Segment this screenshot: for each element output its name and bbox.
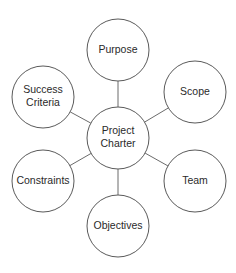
connector-success-criteria [70, 112, 91, 123]
node-success-criteria: SuccessCriteria [12, 66, 74, 128]
node-label: Success [23, 83, 63, 95]
node-constraints: Constraints [12, 150, 74, 212]
node-label: Criteria [26, 96, 60, 108]
connector-constraints [70, 153, 91, 165]
node-label: Team [182, 174, 208, 186]
connector-team [145, 153, 168, 166]
node-label: Charter [100, 137, 136, 149]
nodes: PurposeScopeTeamObjectivesConstraintsSuc… [12, 19, 226, 257]
node-objectives: Objectives [87, 195, 149, 257]
node-scope: Scope [164, 61, 226, 123]
node-label: Project [102, 124, 135, 136]
node-label: Constraints [16, 174, 69, 186]
node-team: Team [164, 150, 226, 212]
node-label: Objectives [93, 219, 142, 231]
project-charter-diagram: PurposeScopeTeamObjectivesConstraintsSuc… [0, 0, 236, 273]
node-label: Purpose [98, 43, 137, 55]
node-purpose: Purpose [87, 19, 149, 81]
connector-scope [145, 108, 169, 122]
center-node-project-charter: ProjectCharter [87, 107, 149, 169]
node-label: Scope [180, 85, 210, 97]
